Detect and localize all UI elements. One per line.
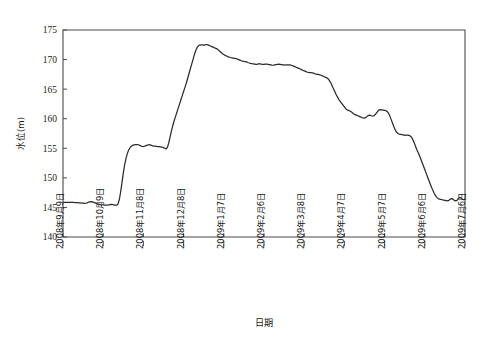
water-level-line-chart: 140145150155160165170175 2008年9月9日2008年1… — [0, 0, 491, 337]
x-tick-label: 2008年12月8日 — [176, 188, 186, 249]
y-tick-label: 175 — [43, 25, 58, 35]
series-water-level — [63, 44, 465, 205]
x-tick-label: 2009年6月6日 — [417, 193, 427, 249]
y-tick-label: 155 — [43, 144, 58, 154]
x-tick-label: 2008年10月9日 — [95, 188, 105, 249]
x-tick-label: 2009年1月7日 — [216, 193, 226, 249]
x-tick-label: 2008年11月8日 — [135, 188, 145, 249]
x-axis-ticks: 2008年9月9日2008年10月9日2008年11月8日2008年12月8日2… — [55, 188, 467, 249]
chart-figure: 140145150155160165170175 2008年9月9日2008年1… — [0, 0, 491, 337]
y-tick-label: 150 — [43, 173, 58, 183]
x-tick-label: 2008年9月9日 — [55, 193, 65, 249]
y-tick-label: 170 — [43, 55, 58, 65]
x-tick-label: 2009年5月7日 — [377, 193, 387, 249]
y-tick-label: 165 — [43, 85, 58, 95]
y-axis-title: 水位(m) — [15, 117, 26, 150]
x-axis-title: 日期 — [255, 317, 273, 328]
x-tick-label: 2009年4月7日 — [336, 193, 346, 249]
x-tick-label: 2009年7月6日 — [457, 193, 467, 249]
y-tick-label: 160 — [43, 114, 58, 124]
x-tick-label: 2009年3月8日 — [296, 193, 306, 249]
x-tick-label: 2009年2月6日 — [256, 193, 266, 249]
